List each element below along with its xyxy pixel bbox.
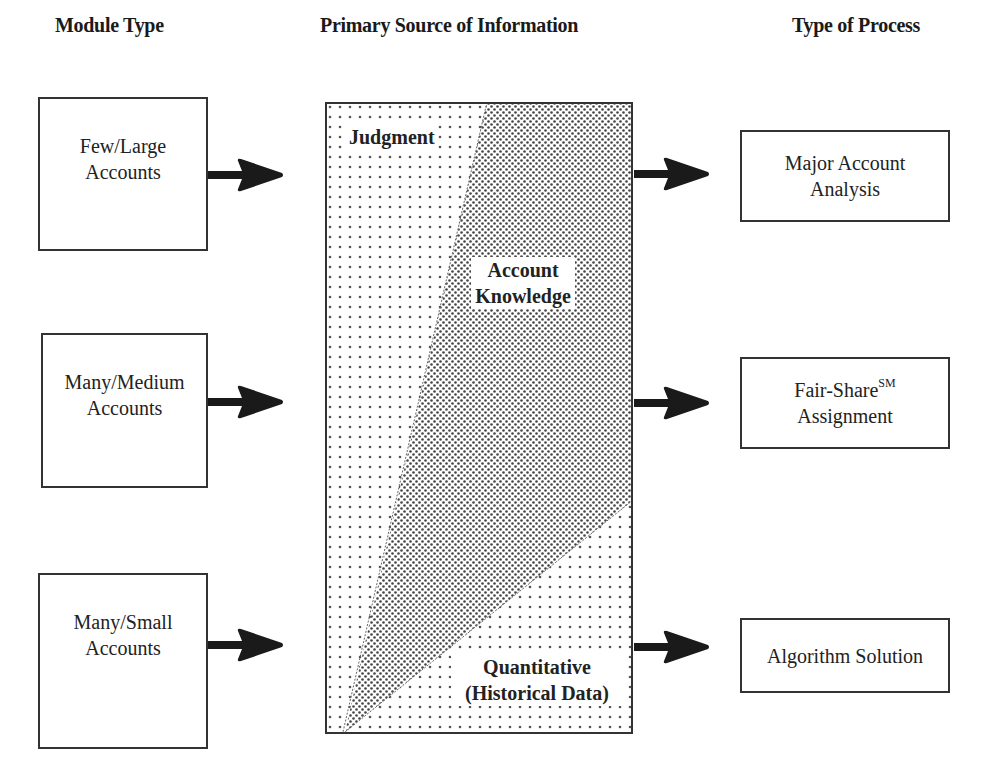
- header-type-of-process: Type of Process: [792, 14, 920, 37]
- arrow-right-icon: [208, 385, 284, 419]
- service-mark: SM: [878, 376, 895, 390]
- information-source-shading: [325, 102, 633, 734]
- arrow-right-icon: [208, 158, 284, 192]
- arrow-right-icon: [634, 630, 710, 664]
- arrow-right-icon: [634, 157, 710, 191]
- label-quantitative-line2: (Historical Data): [453, 680, 621, 706]
- process-label-line2: Assignment: [797, 403, 893, 429]
- header-primary-source: Primary Source of Information: [320, 14, 578, 37]
- module-label-line1: Many/Small: [40, 609, 206, 635]
- label-judgment: Judgment: [347, 124, 437, 150]
- label-account-knowledge-line1: Account: [473, 257, 573, 283]
- process-label-fair-share: Fair-Share: [794, 379, 878, 401]
- header-module-type: Module Type: [55, 14, 164, 37]
- module-box-few-large: Few/Large Accounts: [38, 97, 208, 251]
- label-account-knowledge-line2: Knowledge: [473, 283, 573, 309]
- information-source-panel: Judgment Account Knowledge Quantitative …: [325, 102, 633, 734]
- module-label-line1: Few/Large: [40, 133, 206, 159]
- module-label-line2: Accounts: [40, 159, 206, 185]
- label-quantitative: Quantitative (Historical Data): [451, 654, 623, 706]
- process-box-major-account-analysis: Major Account Analysis: [740, 130, 950, 222]
- module-box-many-medium: Many/Medium Accounts: [41, 333, 208, 488]
- arrow-right-icon: [208, 628, 284, 662]
- process-label-line1: Major Account: [785, 150, 906, 176]
- process-label-line1: Fair-ShareSM: [794, 377, 895, 403]
- process-label-line2: Analysis: [810, 176, 880, 202]
- process-box-algorithm-solution: Algorithm Solution: [740, 618, 950, 693]
- module-box-many-small: Many/Small Accounts: [38, 573, 208, 749]
- label-account-knowledge: Account Knowledge: [471, 257, 575, 309]
- module-label-line2: Accounts: [43, 395, 206, 421]
- module-label-line1: Many/Medium: [43, 369, 206, 395]
- process-box-fair-share-assignment: Fair-ShareSM Assignment: [740, 357, 950, 449]
- process-label-line1: Algorithm Solution: [767, 643, 923, 669]
- arrow-right-icon: [634, 386, 710, 420]
- label-quantitative-line1: Quantitative: [453, 654, 621, 680]
- module-label-line2: Accounts: [40, 635, 206, 661]
